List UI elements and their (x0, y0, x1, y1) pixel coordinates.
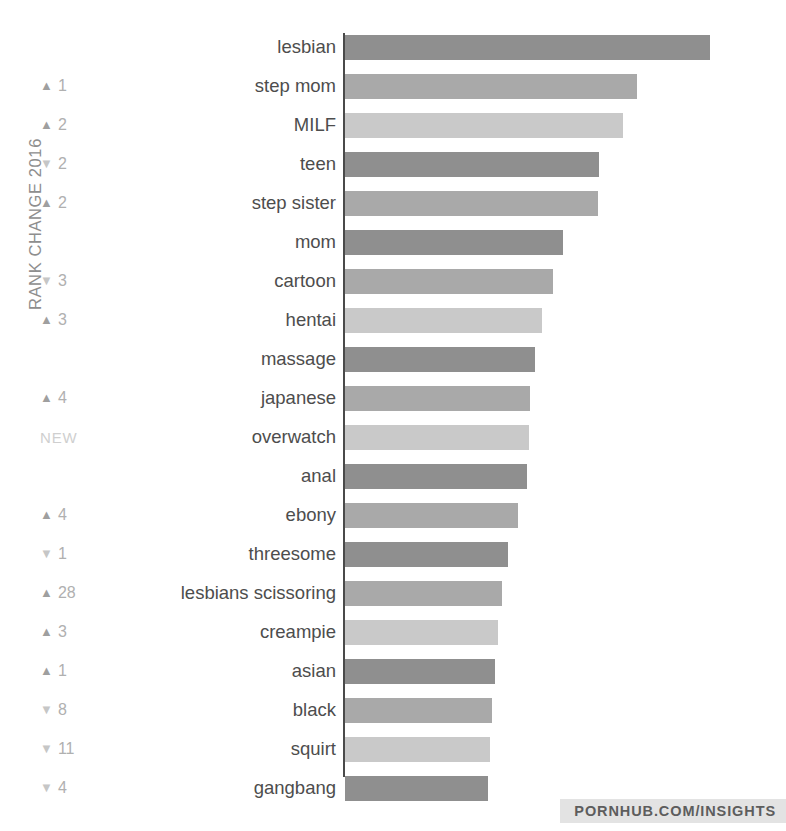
rank-change-value: 3 (58, 623, 67, 641)
rank-down-triangle-icon: ▼ (40, 157, 53, 170)
rank-change-value: 3 (58, 311, 67, 329)
category-label: overwatch (100, 422, 336, 452)
bar (345, 308, 542, 333)
category-label: massage (100, 344, 336, 374)
bar-row: ▲1step mom (0, 71, 786, 101)
rank-change-value: 3 (58, 272, 67, 290)
rank-new-badge: NEW (40, 429, 77, 446)
rank-down-triangle-icon: ▼ (40, 781, 53, 794)
category-label: MILF (100, 110, 336, 140)
rank-change-value: 1 (58, 545, 67, 563)
rank-up-triangle-icon: ▲ (40, 625, 53, 638)
rank-down-triangle-icon: ▼ (40, 547, 53, 560)
category-label: anal (100, 461, 336, 491)
rank-change-value: 2 (58, 155, 67, 173)
rank-change-value: 1 (58, 77, 67, 95)
category-label: threesome (100, 539, 336, 569)
bar (345, 659, 495, 684)
rank-up-triangle-icon: ▲ (40, 586, 53, 599)
bar (345, 620, 498, 645)
rank-up-triangle-icon: ▲ (40, 196, 53, 209)
horizontal-bar-chart: lesbian▲1step mom▲2MILF▼2teen▲2step sist… (0, 0, 786, 790)
bar (345, 35, 710, 60)
category-label: cartoon (100, 266, 336, 296)
category-label: ebony (100, 500, 336, 530)
bar-row: lesbian (0, 32, 786, 62)
bar-row: massage (0, 344, 786, 374)
rank-up-triangle-icon: ▲ (40, 313, 53, 326)
bar-row: ▲4japanese (0, 383, 786, 413)
bar (345, 581, 502, 606)
bar-row: ▼3cartoon (0, 266, 786, 296)
bar-row: ▲1asian (0, 656, 786, 686)
bar-row: anal (0, 461, 786, 491)
bar (345, 386, 530, 411)
rank-change-value: 2 (58, 194, 67, 212)
bar-row: ▼2teen (0, 149, 786, 179)
rank-down-triangle-icon: ▼ (40, 703, 53, 716)
rank-up-triangle-icon: ▲ (40, 118, 53, 131)
category-label: squirt (100, 734, 336, 764)
bar (345, 269, 553, 294)
bar (345, 425, 529, 450)
category-label: black (100, 695, 336, 725)
bar (345, 113, 623, 138)
rank-change-value: 2 (58, 116, 67, 134)
bar (345, 230, 563, 255)
bar (345, 776, 488, 801)
category-label: japanese (100, 383, 336, 413)
category-label: lesbian (100, 32, 336, 62)
category-label: step sister (100, 188, 336, 218)
rank-change-value: 4 (58, 779, 67, 797)
category-label: hentai (100, 305, 336, 335)
rank-change-value: 11 (58, 740, 75, 758)
bar-row: ▼11squirt (0, 734, 786, 764)
category-label: creampie (100, 617, 336, 647)
bar (345, 737, 490, 762)
bar (345, 152, 599, 177)
bar-row: mom (0, 227, 786, 257)
category-label: asian (100, 656, 336, 686)
bar (345, 542, 508, 567)
rank-down-triangle-icon: ▼ (40, 742, 53, 755)
category-label: lesbians scissoring (100, 578, 336, 608)
rank-down-triangle-icon: ▼ (40, 274, 53, 287)
bar-row: ▲3hentai (0, 305, 786, 335)
bar-row: ▼8black (0, 695, 786, 725)
category-label: teen (100, 149, 336, 179)
bar-row: ▲2MILF (0, 110, 786, 140)
bar (345, 74, 637, 99)
bar-row: ▲4ebony (0, 500, 786, 530)
category-label: gangbang (100, 773, 336, 803)
bar (345, 347, 535, 372)
bar (345, 698, 492, 723)
category-label: step mom (100, 71, 336, 101)
insights-footer-badge: PORNHUB.COM/INSIGHTS (560, 799, 786, 823)
footer-badge-text: PORNHUB.COM/INSIGHTS (574, 803, 776, 819)
bar (345, 503, 518, 528)
rank-up-triangle-icon: ▲ (40, 391, 53, 404)
bar (345, 191, 598, 216)
rank-change-value: 4 (58, 506, 67, 524)
rank-change-value: 1 (58, 662, 67, 680)
rank-change-value: 28 (58, 584, 76, 602)
bar-row: NEWoverwatch (0, 422, 786, 452)
category-label: mom (100, 227, 336, 257)
bar (345, 464, 527, 489)
rank-up-triangle-icon: ▲ (40, 79, 53, 92)
bar-row: ▲28lesbians scissoring (0, 578, 786, 608)
rank-up-triangle-icon: ▲ (40, 508, 53, 521)
rank-change-value: 8 (58, 701, 67, 719)
bar-row: ▲2step sister (0, 188, 786, 218)
bar-row: ▲3creampie (0, 617, 786, 647)
bar-row: ▼1threesome (0, 539, 786, 569)
rank-up-triangle-icon: ▲ (40, 664, 53, 677)
rank-change-value: 4 (58, 389, 67, 407)
